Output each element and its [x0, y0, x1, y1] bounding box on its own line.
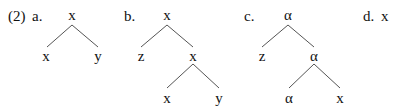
edge-c-right — [288, 25, 314, 47]
tree-b-subtree-root: x — [189, 49, 197, 64]
tree-c-root: α — [284, 8, 292, 23]
tree-a-left-leaf: x — [42, 49, 50, 64]
tree-b-subtree-right-leaf: y — [215, 91, 223, 106]
tree-c-label: c. — [244, 9, 254, 24]
tree-b-subtree-left-leaf: x — [163, 91, 171, 106]
tree-b-label: b. — [124, 9, 135, 24]
example-number: (2) — [8, 9, 26, 24]
edge-b-left — [141, 25, 167, 47]
tree-c-subtree-right-leaf: x — [336, 91, 344, 106]
tree-b-root: x — [163, 8, 171, 23]
tree-d-label: d. — [363, 9, 374, 24]
edge-b-sub-left — [167, 64, 193, 88]
tree-c-subtree-root: α — [310, 49, 318, 64]
tree-c-left-leaf: z — [259, 49, 266, 64]
edge-b-right — [167, 25, 193, 47]
tree-b-left-leaf: z — [138, 49, 145, 64]
tree-a-right-leaf: y — [94, 49, 102, 64]
edge-a-left — [47, 25, 72, 47]
edge-c-sub-left — [289, 64, 314, 88]
tree-c-subtree-left-leaf: α — [285, 91, 293, 106]
edge-c-sub-right — [314, 64, 340, 88]
edge-b-sub-right — [193, 64, 219, 88]
edge-c-left — [262, 25, 288, 47]
tree-d-root: x — [381, 9, 389, 24]
tree-a-label: a. — [32, 9, 42, 24]
tree-a-root: x — [68, 8, 76, 23]
edge-a-right — [72, 25, 98, 47]
